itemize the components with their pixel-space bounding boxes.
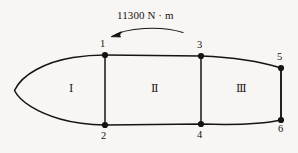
engineering-figure: 11300 N · m 1 2 3 4 5 6 Ⅰ Ⅱ Ⅲ [0,0,298,153]
node-marker-4 [198,121,204,127]
node-label-5: 5 [277,52,282,63]
node-label-1: 1 [100,39,105,50]
node-label-6: 6 [278,124,283,135]
region-label-2: Ⅱ [151,83,159,94]
node-marker-2 [102,122,108,128]
node-label-4: 4 [197,130,202,141]
moment-magnitude-label: 11300 N · m [117,10,174,21]
moment-arrow-icon [111,28,183,37]
node-marker-1 [102,52,108,58]
region-label-1: Ⅰ [69,83,74,94]
node-label-2: 2 [101,131,106,142]
node-marker-3 [198,53,204,59]
region-label-3: Ⅲ [236,83,247,94]
figure-canvas [0,0,298,153]
node-label-3: 3 [197,40,202,51]
node-marker-5 [278,65,284,71]
